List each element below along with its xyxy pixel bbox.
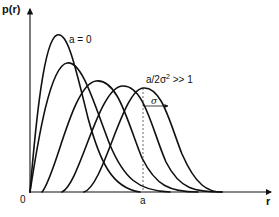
sigma-label: σ — [151, 97, 157, 106]
a-large-prefix: a/2σ — [146, 74, 166, 85]
x-axis-label: r — [266, 196, 270, 207]
a-zero-annotation: a = 0 — [69, 35, 92, 45]
a-large-suffix: >> 1 — [170, 74, 193, 85]
a-tick-label: a — [140, 196, 146, 206]
origin-label: 0 — [20, 195, 26, 205]
rician-density-chart — [0, 0, 279, 217]
curve-4 — [62, 86, 222, 192]
y-axis-label: p(r) — [2, 4, 20, 15]
a-large-annotation: a/2σ2 >> 1 — [146, 73, 193, 85]
